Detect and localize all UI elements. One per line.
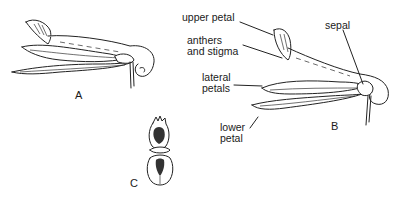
label-anthers-line2: and stigma (187, 46, 238, 57)
label-upper-petal: upper petal (182, 12, 235, 23)
flower-diagram: A B C upper petal anthers and stigma lat… (0, 0, 405, 206)
label-lower-line2: petal (220, 133, 243, 144)
label-sepal: sepal (325, 20, 350, 31)
panel-label-c: C (130, 177, 138, 189)
flower-c-drawing (147, 116, 173, 185)
label-lateral-line2: petals (202, 83, 230, 94)
panel-label-a: A (75, 89, 82, 101)
flower-b-drawing (234, 22, 388, 128)
flower-a-drawing (12, 20, 154, 88)
panel-label-b: B (331, 120, 338, 132)
